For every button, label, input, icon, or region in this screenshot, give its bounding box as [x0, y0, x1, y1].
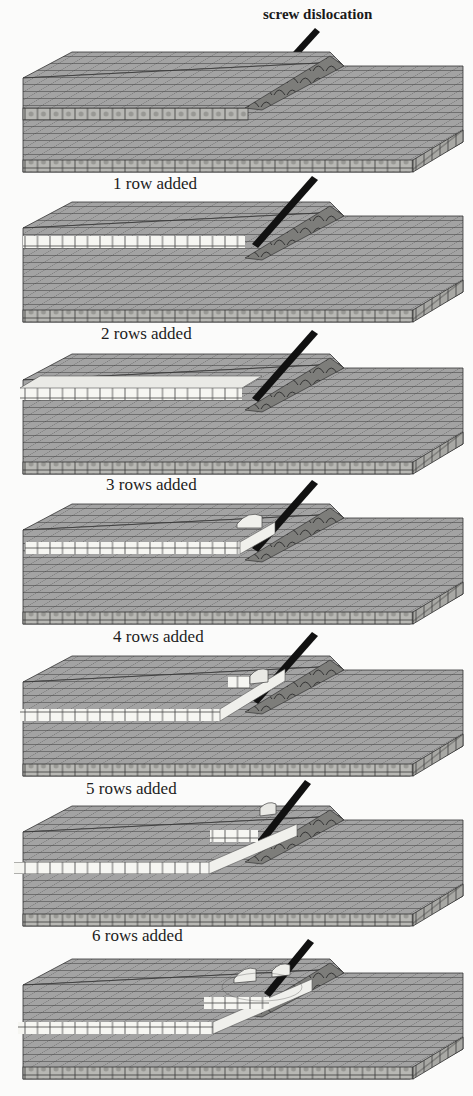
crystal-growth-diagram [0, 0, 473, 1096]
panel-1-slab [23, 176, 463, 322]
panel-4-slab [20, 632, 463, 776]
panel-6-slab [18, 939, 463, 1079]
panel-0-slab [23, 52, 463, 172]
panel-2-slab [20, 330, 463, 474]
panel-3-slab [23, 480, 463, 624]
panel-5-slab [14, 780, 463, 926]
